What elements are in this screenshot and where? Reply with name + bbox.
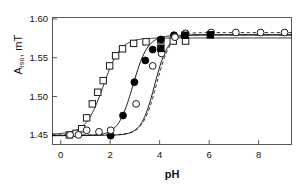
data-point-filled-square (182, 32, 188, 38)
data-point-open-square (89, 101, 95, 107)
data-point-open-circle (232, 29, 239, 36)
data-point-open-circle (281, 29, 288, 36)
chart-figure: Aiso, mT 1.451.501.551.60 02468 pH (0, 0, 300, 187)
data-point-open-square (143, 39, 149, 45)
data-point-open-circle (107, 127, 114, 134)
data-point-open-square (95, 89, 101, 95)
x-tick-label: 6 (194, 149, 224, 160)
data-point-open-square (83, 115, 89, 121)
data-point-filled-circle (131, 79, 138, 86)
x-tick-label: 4 (145, 149, 175, 160)
data-point-open-square (119, 46, 125, 52)
data-point-open-square (130, 40, 136, 46)
data-point-open-square (112, 53, 118, 59)
data-point-filled-square (207, 32, 213, 38)
x-tick-label: 2 (95, 149, 125, 160)
x-axis-label: pH (52, 168, 292, 180)
data-point-open-square (100, 77, 106, 83)
data-point-open-square (106, 63, 112, 69)
x-tick-label: 0 (46, 149, 76, 160)
data-point-filled-circle (142, 57, 149, 64)
x-tick-label: 8 (244, 149, 274, 160)
data-point-open-circle (96, 128, 103, 135)
data-point-filled-circle (120, 112, 127, 119)
data-point-filled-circle (149, 46, 156, 53)
data-point-open-circle (149, 62, 156, 69)
data-point-open-circle (257, 29, 264, 36)
data-point-filled-circle (157, 36, 164, 43)
data-point-open-circle (172, 34, 179, 41)
data-point-filled-square (158, 45, 164, 51)
data-point-open-circle (133, 100, 140, 107)
data-point-open-circle (67, 132, 74, 139)
data-point-open-circle (75, 132, 82, 139)
data-point-open-circle (83, 127, 90, 134)
